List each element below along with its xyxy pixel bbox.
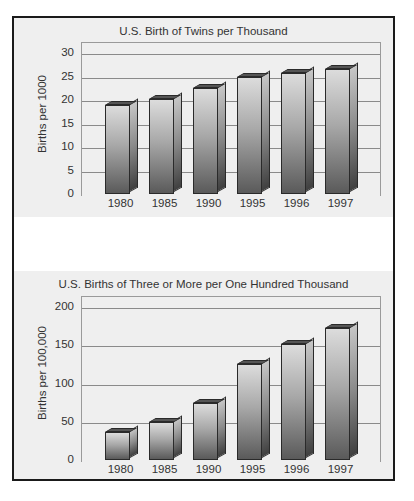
triplets-chart-title: U.S. Births of Three or More per One Hun… (14, 278, 393, 290)
x-tick-label: 1985 (145, 197, 185, 209)
bar-side (350, 62, 358, 192)
bar-1995 (237, 72, 262, 194)
x-tick-label: 1980 (101, 463, 141, 475)
bar-front (105, 432, 130, 460)
twins-chart-title: U.S. Birth of Twins per Thousand (14, 25, 393, 37)
y-tick-label: 15 (46, 117, 74, 129)
figure-frame: U.S. Birth of Twins per Thousand Births … (12, 16, 395, 481)
x-tick-label: 1995 (233, 463, 273, 475)
bar-front (237, 77, 262, 194)
bar-1990 (193, 398, 218, 460)
y-tick-label: 0 (46, 453, 74, 465)
bar-side (218, 81, 226, 192)
triplets-y-axis-label: Births per 100,000 (36, 317, 48, 429)
y-tick-label: 100 (46, 377, 74, 389)
bar-1996 (281, 339, 306, 460)
x-tick-label: 1997 (321, 197, 361, 209)
bar-front (281, 73, 306, 194)
x-tick-label: 1990 (189, 463, 229, 475)
y-tick-label: 200 (46, 300, 74, 312)
bar-side (306, 67, 314, 192)
bar-side (262, 71, 270, 192)
bar-1980 (105, 100, 130, 194)
x-tick-label: 1995 (233, 197, 273, 209)
bar-front (105, 105, 130, 194)
bar-1997 (325, 323, 350, 460)
y-tick-label: 20 (46, 93, 74, 105)
bar-front (325, 69, 350, 194)
bar-side (130, 99, 138, 192)
bar-1985 (149, 94, 174, 194)
x-tick-label: 1980 (101, 197, 141, 209)
bar-1990 (193, 83, 218, 194)
y-tick-label: 30 (46, 46, 74, 58)
x-tick-label: 1996 (277, 463, 317, 475)
bar-front (193, 88, 218, 194)
bar-front (193, 403, 218, 460)
bar-front (149, 99, 174, 194)
bar-side (262, 357, 270, 458)
bar-side (218, 397, 226, 458)
bar-1997 (325, 64, 350, 194)
bar-front (281, 344, 306, 460)
gridline (82, 54, 380, 55)
y-tick-label: 50 (46, 415, 74, 427)
twins-chart-panel: U.S. Birth of Twins per Thousand Births … (14, 18, 393, 217)
bar-1996 (281, 68, 306, 194)
bar-front (237, 364, 262, 460)
gridline (82, 308, 380, 309)
y-tick-label: 150 (46, 338, 74, 350)
bar-front (149, 422, 174, 460)
y-tick-label: 0 (46, 187, 74, 199)
bar-side (350, 321, 358, 458)
y-tick-label: 10 (46, 140, 74, 152)
bar-front (325, 328, 350, 460)
bar-1985 (149, 417, 174, 460)
x-tick-label: 1997 (321, 463, 361, 475)
x-tick-label: 1990 (189, 197, 229, 209)
y-tick-label: 25 (46, 70, 74, 82)
x-tick-label: 1985 (145, 463, 185, 475)
bar-side (174, 415, 182, 458)
bar-side (174, 92, 182, 192)
triplets-chart-panel: U.S. Births of Three or More per One Hun… (14, 271, 393, 479)
x-tick-label: 1996 (277, 197, 317, 209)
bar-1980 (105, 427, 130, 460)
bar-side (306, 337, 314, 458)
bar-1995 (237, 359, 262, 460)
y-tick-label: 5 (46, 164, 74, 176)
